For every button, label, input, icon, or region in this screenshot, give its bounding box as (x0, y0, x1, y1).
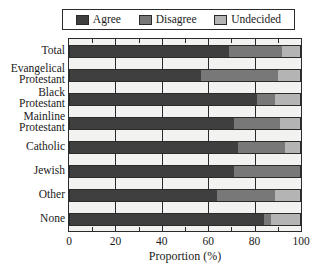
minor-tick (231, 227, 232, 231)
segment-disagree (234, 165, 301, 178)
segment-disagree (257, 93, 276, 106)
y-axis-labels: TotalEvangelicalProtestantBlackProtestan… (0, 38, 68, 232)
x-tick-20: 20 (110, 235, 122, 247)
minor-tick (231, 39, 232, 43)
y-label-mainline-protestant: MainlineProtestant (2, 111, 68, 133)
segment-agree (69, 69, 201, 82)
y-label-line: Protestant (2, 98, 65, 109)
agree-swatch (76, 15, 89, 25)
chart-legend: AgreeDisagreeUndecided (62, 9, 295, 30)
bar-black-protestant[interactable] (69, 93, 301, 106)
legend-label-undecided: Undecided (231, 14, 281, 26)
minor-tick (185, 227, 186, 231)
segment-agree (69, 213, 264, 226)
segment-undecided (280, 117, 301, 130)
disagree-swatch (139, 15, 152, 25)
segment-agree (69, 117, 234, 130)
y-label-line: Jewish (2, 165, 65, 176)
minor-tick (92, 227, 93, 231)
segment-disagree (229, 45, 282, 58)
y-label-none: None (2, 213, 68, 224)
bar-catholic[interactable] (69, 141, 301, 154)
y-label-jewish: Jewish (2, 165, 68, 176)
segment-undecided (285, 141, 301, 154)
segment-agree (69, 189, 217, 202)
segment-agree (69, 141, 238, 154)
minor-tick (278, 39, 279, 43)
plot-area (68, 38, 302, 232)
y-label-line: Catholic (2, 141, 65, 152)
bar-jewish[interactable] (69, 165, 301, 178)
minor-tick (139, 227, 140, 231)
y-label-line: Protestant (2, 74, 65, 85)
bar-evangelical-protestant[interactable] (69, 69, 301, 82)
segment-disagree (201, 69, 278, 82)
segment-agree (69, 45, 229, 58)
bar-other[interactable] (69, 189, 301, 202)
y-label-line: Total (2, 45, 65, 56)
bar-total[interactable] (69, 45, 301, 58)
segment-agree (69, 165, 234, 178)
y-label-black-protestant: BlackProtestant (2, 87, 68, 109)
y-label-other: Other (2, 189, 68, 200)
x-axis-title: Proportion (%) (68, 250, 302, 263)
stacked-bar-chart: AgreeDisagreeUndecided TotalEvangelicalP… (0, 0, 319, 270)
x-tick-40: 40 (156, 235, 168, 247)
segment-undecided (275, 189, 301, 202)
segment-agree (69, 93, 257, 106)
y-label-evangelical-protestant: EvangelicalProtestant (2, 63, 68, 85)
x-tick-60: 60 (202, 235, 214, 247)
segment-disagree (234, 117, 280, 130)
bar-mainline-protestant[interactable] (69, 117, 301, 130)
x-tick-0: 0 (66, 235, 72, 247)
minor-tick (278, 227, 279, 231)
minor-tick (139, 39, 140, 43)
y-label-total: Total (2, 45, 68, 56)
legend-entry-disagree[interactable]: Disagree (139, 14, 197, 26)
legend-label-agree: Agree (93, 14, 121, 26)
y-label-catholic: Catholic (2, 141, 68, 152)
y-label-line: Other (2, 189, 65, 200)
legend-label-disagree: Disagree (156, 14, 197, 26)
segment-disagree (238, 141, 284, 154)
legend-entry-undecided[interactable]: Undecided (214, 14, 281, 26)
segment-undecided (278, 69, 301, 82)
segment-disagree (217, 189, 275, 202)
undecided-swatch (214, 15, 227, 25)
y-label-line: None (2, 213, 65, 224)
segment-undecided (275, 93, 301, 106)
legend-entry-agree[interactable]: Agree (76, 14, 121, 26)
minor-tick (185, 39, 186, 43)
x-axis-tick-labels: 020406080100 (68, 235, 302, 249)
x-tick-80: 80 (249, 235, 261, 247)
minor-tick (92, 39, 93, 43)
y-label-line: Protestant (2, 122, 65, 133)
segment-undecided (271, 213, 301, 226)
x-tick-100: 100 (292, 235, 309, 247)
bar-none[interactable] (69, 213, 301, 226)
segment-disagree (264, 213, 271, 226)
segment-undecided (282, 45, 301, 58)
